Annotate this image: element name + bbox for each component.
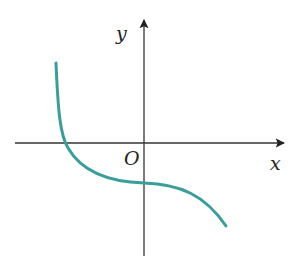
function-graph: y x O [0,0,302,262]
y-axis-label: y [115,22,127,44]
origin-label: O [124,147,140,169]
x-axis-label: x [270,152,281,174]
function-curve [56,63,226,226]
